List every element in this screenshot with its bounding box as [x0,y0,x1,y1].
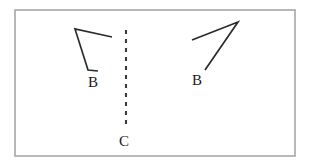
label-centerline-c: C [119,133,129,149]
label-left-b: B [88,74,98,90]
figure-container: B B C [0,0,310,166]
figure-frame-border [15,10,295,156]
label-right-b: B [192,72,202,88]
diagram-canvas: B B C [0,0,310,166]
